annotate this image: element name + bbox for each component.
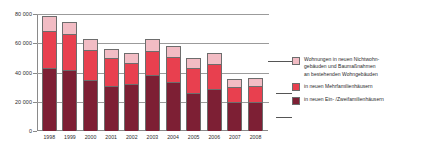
bar-segment[interactable] [42, 31, 57, 68]
y-axis-label: 80 000 [15, 11, 32, 17]
y-axis-label: 0 [29, 128, 32, 134]
bar-segment[interactable] [227, 87, 242, 102]
chart-legend: Wohnungen in neuen Nichtwohn-gebäuden un… [292, 56, 420, 110]
bar-segment[interactable] [248, 86, 263, 101]
bar-segment[interactable] [166, 57, 181, 82]
bar-segment[interactable] [104, 49, 119, 59]
x-axis-label: 2001 [105, 134, 117, 140]
bar-segment[interactable] [186, 58, 201, 68]
bar-segment[interactable] [62, 70, 77, 131]
bar-segment[interactable] [186, 93, 201, 131]
bar-segment[interactable] [83, 50, 98, 80]
bar-group[interactable]: 2008 [248, 14, 263, 131]
bar-segment[interactable] [207, 53, 222, 64]
bar-segment[interactable] [42, 68, 57, 131]
legend-swatch [292, 97, 300, 105]
x-axis-label: 1998 [43, 134, 55, 140]
x-axis-label: 2006 [208, 134, 220, 140]
legend-item[interactable]: in neuen Ein- /Zweifamilienhäusern [292, 96, 420, 105]
bar-segment[interactable] [145, 75, 160, 131]
bar-segment[interactable] [124, 53, 139, 63]
legend-leader-line [276, 117, 292, 118]
bar-segment[interactable] [166, 46, 181, 57]
legend-item[interactable]: Wohnungen in neuen Nichtwohn-gebäuden un… [292, 56, 420, 78]
x-axis-label: 2004 [167, 134, 179, 140]
y-axis-label: 20 000 [15, 99, 32, 105]
x-axis-label: 2003 [147, 134, 159, 140]
plot-area: 020 00040 00060 00080 000 19981999200020… [37, 14, 268, 131]
x-axis-label: 2008 [250, 134, 262, 140]
legend-swatch [292, 83, 300, 91]
legend-swatch [292, 57, 300, 65]
legend-label: Wohnungen in neuen Nichtwohn-gebäuden un… [304, 56, 379, 78]
x-axis-label: 2002 [126, 134, 138, 140]
bar-group[interactable]: 1998 [42, 14, 57, 131]
bar-segment[interactable] [207, 89, 222, 131]
legend-label: in neuen Ein- /Zweifamilienhäusern [304, 96, 384, 103]
x-axis-label: 2007 [229, 134, 241, 140]
bar-segment[interactable] [227, 79, 242, 87]
legend-label: in neuen Mehrfamilienhäusern [304, 83, 373, 90]
bar-segment[interactable] [83, 80, 98, 131]
bar-group[interactable]: 2002 [124, 14, 139, 131]
bar-group[interactable]: 2007 [227, 14, 242, 131]
bar-segment[interactable] [186, 68, 201, 94]
bar-segment[interactable] [104, 86, 119, 131]
legend-item[interactable]: in neuen Mehrfamilienhäusern [292, 83, 420, 92]
bar-segment[interactable] [248, 102, 263, 131]
bar-segment[interactable] [145, 51, 160, 76]
chart-figure: 020 00040 00060 00080 000 19981999200020… [0, 0, 421, 157]
bar-segment[interactable] [62, 34, 77, 70]
bar-segment[interactable] [166, 82, 181, 131]
bar-group[interactable]: 2004 [166, 14, 181, 131]
y-axis-label: 60 000 [15, 40, 32, 46]
bar-group[interactable]: 2000 [83, 14, 98, 131]
bar-segment[interactable] [124, 63, 139, 84]
x-axis-label: 1999 [64, 134, 76, 140]
y-axis-label: 40 000 [15, 70, 32, 76]
bar-segment[interactable] [227, 102, 242, 131]
bar-segment[interactable] [124, 84, 139, 131]
bar-segment[interactable] [83, 39, 98, 50]
bar-group[interactable]: 2006 [207, 14, 222, 131]
bar-group[interactable]: 2003 [145, 14, 160, 131]
bar-segment[interactable] [42, 16, 57, 31]
bar-group[interactable]: 2001 [104, 14, 119, 131]
legend-leader-line [276, 93, 292, 94]
bar-segment[interactable] [145, 39, 160, 50]
x-axis-label: 2000 [85, 134, 97, 140]
bar-segment[interactable] [62, 22, 77, 35]
bar-segment[interactable] [104, 58, 119, 85]
y-tick-mark [33, 131, 37, 132]
bar-group[interactable]: 2005 [186, 14, 201, 131]
x-axis-label: 2005 [188, 134, 200, 140]
legend-leader-line [268, 61, 292, 62]
bar-segment[interactable] [248, 78, 263, 86]
bar-segment[interactable] [207, 64, 222, 89]
bar-series-container: 1998199920002001200220032004200520062007… [37, 14, 268, 131]
bar-group[interactable]: 1999 [62, 14, 77, 131]
